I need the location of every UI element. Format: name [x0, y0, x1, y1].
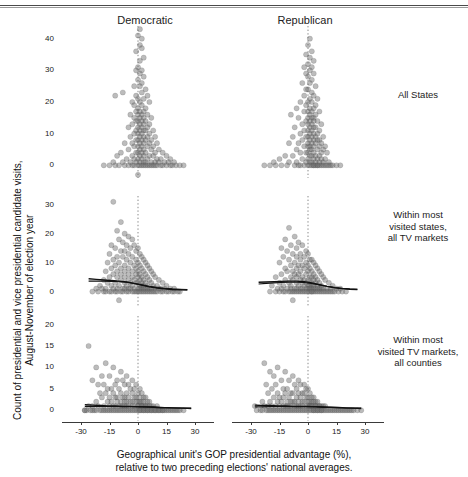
- data-point: [311, 408, 316, 413]
- data-point: [309, 403, 314, 408]
- data-point: [149, 286, 154, 291]
- data-point: [275, 286, 280, 291]
- data-point: [118, 272, 123, 277]
- data-point: [153, 408, 158, 413]
- data-point: [154, 408, 159, 413]
- data-point: [126, 125, 131, 130]
- data-point: [160, 150, 165, 155]
- data-point: [279, 286, 284, 291]
- data-point: [298, 395, 303, 400]
- data-point: [130, 283, 135, 288]
- data-point: [151, 128, 156, 133]
- data-point: [279, 246, 284, 251]
- data-point: [139, 254, 144, 259]
- data-point: [156, 286, 161, 291]
- data-point: [286, 257, 291, 262]
- data-point: [343, 408, 348, 413]
- data-point: [149, 160, 154, 165]
- data-point: [141, 147, 146, 152]
- data-point: [304, 280, 309, 285]
- data-point: [139, 156, 144, 161]
- data-point: [304, 160, 309, 165]
- data-point: [307, 106, 312, 111]
- data-point: [156, 277, 161, 282]
- data-point: [313, 263, 318, 268]
- data-point: [302, 254, 307, 259]
- data-point: [154, 283, 159, 288]
- data-point: [307, 403, 312, 408]
- data-point: [319, 283, 324, 288]
- data-point: [267, 399, 272, 404]
- data-point: [267, 163, 272, 168]
- data-point: [137, 277, 142, 282]
- data-point: [181, 408, 186, 413]
- data-point: [330, 163, 335, 168]
- data-point: [94, 408, 99, 413]
- data-point: [309, 134, 314, 139]
- data-point: [147, 399, 152, 404]
- data-point: [135, 289, 140, 294]
- data-point: [149, 403, 154, 408]
- data-point: [277, 403, 282, 408]
- data-point: [90, 378, 95, 383]
- figure-canvas: Democratic Republican Count of president…: [0, 0, 468, 477]
- data-point: [286, 225, 291, 230]
- data-point: [296, 240, 301, 245]
- data-point: [304, 395, 309, 400]
- data-point: [122, 286, 127, 291]
- y-tick-label: 0: [28, 405, 54, 414]
- data-point: [153, 150, 158, 155]
- data-point: [304, 71, 309, 76]
- data-point: [292, 289, 297, 294]
- data-point: [97, 283, 102, 288]
- data-point: [137, 160, 142, 165]
- data-point: [111, 365, 116, 370]
- data-point: [305, 42, 310, 47]
- data-point: [107, 403, 112, 408]
- data-point: [277, 408, 282, 413]
- data-point: [120, 286, 125, 291]
- data-point: [105, 399, 110, 404]
- data-point: [294, 246, 299, 251]
- data-point: [151, 163, 156, 168]
- data-point: [307, 408, 312, 413]
- data-point: [309, 122, 314, 127]
- x-tick-label: -15: [98, 427, 122, 436]
- data-point: [300, 137, 305, 142]
- data-point: [313, 160, 318, 165]
- data-point: [305, 289, 310, 294]
- data-point: [319, 403, 324, 408]
- data-point: [315, 289, 320, 294]
- data-point: [141, 134, 146, 139]
- header-rule-bottom: [0, 7, 468, 8]
- data-point: [307, 147, 312, 152]
- data-point: [139, 399, 144, 404]
- data-point: [302, 382, 307, 387]
- data-point: [103, 269, 108, 274]
- data-point: [309, 257, 314, 262]
- data-point: [309, 141, 314, 146]
- data-point: [118, 289, 123, 294]
- data-point: [305, 286, 310, 291]
- data-point: [132, 289, 137, 294]
- data-point: [311, 408, 316, 413]
- data-point: [145, 112, 150, 117]
- data-point: [328, 289, 333, 294]
- data-point: [141, 286, 146, 291]
- data-point: [279, 378, 284, 383]
- data-point: [118, 219, 123, 224]
- data-point: [120, 289, 125, 294]
- data-point: [122, 395, 127, 400]
- data-point: [323, 289, 328, 294]
- data-point: [315, 118, 320, 123]
- data-point: [296, 391, 301, 396]
- data-point: [305, 115, 310, 120]
- data-point: [273, 274, 278, 279]
- data-point: [147, 163, 152, 168]
- data-point: [94, 399, 99, 404]
- data-point: [258, 408, 263, 413]
- data-point: [298, 286, 303, 291]
- data-point: [126, 251, 131, 256]
- data-point: [160, 408, 165, 413]
- data-point: [283, 408, 288, 413]
